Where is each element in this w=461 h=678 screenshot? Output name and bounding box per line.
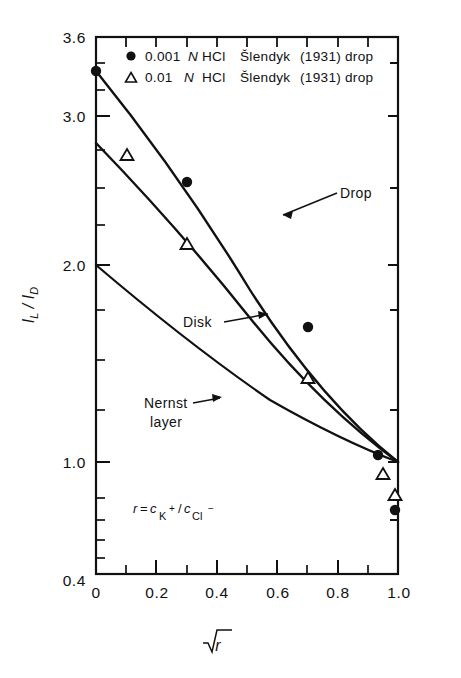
y-tick-label-1.0: 1.0 bbox=[63, 454, 86, 471]
figure-root: 3.6 3.0 2.0 1.0 0.4 bbox=[0, 0, 461, 678]
formula-c2-sup: − bbox=[208, 503, 214, 514]
x-tick-label-0.2: 0.2 bbox=[145, 584, 168, 601]
legend-entry-1-conc: 0.001 bbox=[145, 49, 181, 64]
y-tick-label-3.0: 3.0 bbox=[63, 108, 86, 125]
formula-div: / bbox=[178, 501, 182, 516]
legend-entry-1-year: (1931) bbox=[300, 49, 341, 64]
y-tick-label-0.4: 0.4 bbox=[63, 572, 86, 589]
annotation-disk-label: Disk bbox=[183, 314, 212, 330]
legend-entry-2-conc: 0.01 bbox=[145, 70, 173, 85]
legend-entry-2-electrode: drop bbox=[345, 70, 373, 85]
y-tick-label-2.0: 2.0 bbox=[63, 257, 86, 274]
formula-eq: = bbox=[140, 501, 148, 516]
formula-c1: c bbox=[150, 501, 157, 516]
chart-svg: 3.6 3.0 2.0 1.0 0.4 bbox=[0, 0, 461, 678]
x-tick-label-0.6: 0.6 bbox=[266, 584, 289, 601]
formula-c2: c bbox=[184, 501, 191, 516]
legend-entry-2-acid: HCl bbox=[202, 70, 226, 85]
legend-entry-2-normality: N bbox=[184, 70, 194, 85]
annotation-drop-label: Drop bbox=[340, 185, 372, 201]
x-tick-label-0.8: 0.8 bbox=[326, 584, 349, 601]
formula-c2-sub: Cl bbox=[192, 510, 202, 522]
data-point-circle bbox=[390, 505, 400, 515]
legend-entry-1-normality: N bbox=[188, 49, 198, 64]
legend-entry-1: 0.001 N HCl Šlendyk (1931) drop bbox=[145, 49, 373, 64]
x-tick-label-1.0: 1.0 bbox=[387, 584, 410, 601]
legend-entry-2-author: Šlendyk bbox=[240, 70, 290, 85]
legend-entry-1-author: Šlendyk bbox=[240, 49, 290, 64]
annotation-nernst-label-line1: Nernst bbox=[144, 395, 188, 411]
y-axis-title: IL / ID bbox=[20, 287, 40, 323]
legend-marker-filled-circle bbox=[126, 51, 135, 60]
formula-c1-sup: + bbox=[169, 503, 175, 514]
formula-lhs: r bbox=[133, 501, 138, 516]
data-point-circle bbox=[91, 66, 101, 76]
annotation-nernst-label-line2: layer bbox=[150, 414, 182, 430]
x-tick-label-0.4: 0.4 bbox=[205, 584, 228, 601]
x-axis-title-variable: r bbox=[215, 637, 221, 654]
data-point-circle bbox=[303, 322, 313, 332]
x-axis-title: r bbox=[203, 630, 232, 654]
legend-entry-1-acid: HCl bbox=[202, 49, 226, 64]
plot-frame bbox=[96, 37, 398, 574]
x-tick-label-0: 0 bbox=[91, 584, 100, 601]
formula-c1-sub: K bbox=[159, 510, 167, 522]
chart-figure: 3.6 3.0 2.0 1.0 0.4 bbox=[0, 0, 461, 678]
legend-entry-2-year: (1931) bbox=[300, 70, 341, 85]
y-axis-title-text: IL / ID bbox=[20, 287, 40, 323]
legend-entry-1-electrode: drop bbox=[345, 49, 373, 64]
y-tick-label-3.6: 3.6 bbox=[63, 29, 86, 46]
data-point-circle bbox=[373, 450, 383, 460]
data-point-circle bbox=[182, 177, 192, 187]
